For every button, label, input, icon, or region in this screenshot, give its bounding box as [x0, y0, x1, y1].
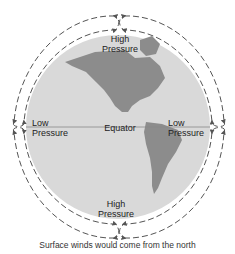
north-high-pressure-label: High Pressure: [100, 34, 140, 54]
label-line: Pressure: [100, 44, 140, 54]
east-low-pressure-label: Low Pressure: [168, 118, 204, 138]
west-low-pressure-label: Low Pressure: [32, 118, 68, 138]
equator-label: Equator: [100, 123, 140, 133]
label-line: Pressure: [32, 128, 68, 138]
label-line: High: [96, 199, 136, 209]
label-line: Pressure: [96, 209, 136, 219]
caption: Surface winds would come from the north: [0, 240, 235, 250]
label-line: Low: [32, 118, 68, 128]
south-high-pressure-label: High Pressure: [96, 199, 136, 219]
label-line: Pressure: [168, 128, 204, 138]
label-line: High: [100, 34, 140, 44]
label-line: Low: [168, 118, 204, 128]
